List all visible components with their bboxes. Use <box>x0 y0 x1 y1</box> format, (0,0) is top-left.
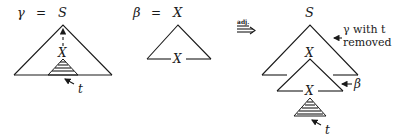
gamma-annotation-line2: removed <box>343 36 392 49</box>
result-beta-foot-label: X <box>304 84 314 98</box>
result-subtree-label: t <box>325 123 330 137</box>
result-root-label: S <box>305 5 314 20</box>
beta-annotation-label: β <box>353 77 361 91</box>
beta-equals: = <box>151 6 161 20</box>
gamma-root-label: S <box>58 5 67 20</box>
gamma-t-pointer <box>65 79 74 84</box>
gamma-equals: = <box>36 6 46 20</box>
gamma-subtree-label: t <box>78 82 83 96</box>
beta-foot-label: X <box>172 52 182 66</box>
double-arrow-head <box>250 27 255 34</box>
adjunction-operation: adj. <box>237 18 255 34</box>
beta-root-label: X <box>172 5 183 20</box>
result-tree: S X X t γ with t removed β <box>262 5 392 137</box>
gamma-subtree-t-hatched <box>48 59 78 75</box>
result-subtree-t-hatched <box>294 98 326 116</box>
beta-tree: β = X X <box>132 5 211 66</box>
beta-symbol: β <box>132 5 141 20</box>
result-t-pointer <box>312 120 321 125</box>
gamma-internal-node-label: X <box>57 46 67 60</box>
gamma-annotation-line1: γ with t <box>343 23 386 36</box>
tag-adjunction-diagram: γ = S X t β = X X adj. <box>0 0 400 139</box>
gamma-tree: γ = S X t <box>14 5 112 96</box>
result-beta-root-label: X <box>304 46 314 60</box>
adjunction-label: adj. <box>237 18 249 26</box>
gamma-symbol: γ <box>17 5 25 20</box>
